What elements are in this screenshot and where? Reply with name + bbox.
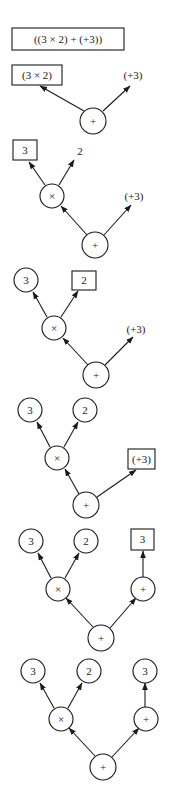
node-label: (+3): [132, 453, 151, 466]
node-times-circle: ×: [46, 577, 70, 601]
node-three-circle: 3: [21, 659, 45, 683]
diagram-stage-2: (3 × 2)(+3)+: [12, 65, 143, 134]
node-right-text: (+3): [123, 69, 142, 82]
node-times-circle: ×: [49, 707, 73, 731]
node-label: 2: [77, 145, 83, 157]
node-label: ((3 × 2) + (+3)): [34, 33, 102, 46]
node-root-circle: +: [82, 232, 108, 258]
node-label: +: [140, 583, 146, 595]
arrow-edge: [59, 160, 74, 185]
arrow-edge: [37, 422, 50, 447]
node-times-circle: ×: [40, 184, 64, 208]
node-root-circle: +: [90, 754, 116, 780]
node-label: (+3): [126, 323, 145, 336]
node-two-circle: 2: [77, 659, 101, 683]
arrow-edge: [65, 553, 79, 578]
node-label: (3 × 2): [22, 69, 52, 82]
node-unary-plus-circle: +: [134, 707, 158, 731]
node-label: 3: [30, 665, 36, 677]
node-three-circle: 3: [19, 529, 43, 553]
diagram-stage-7: 323×++: [21, 659, 158, 780]
node-root-circle: +: [88, 625, 114, 651]
node-label: 2: [86, 665, 92, 677]
node-three-circle: 3: [18, 398, 42, 422]
node-label: ×: [51, 322, 57, 334]
diagram-stage-6: 323×++: [19, 529, 155, 651]
arrow-edge: [68, 683, 82, 708]
node-label: ×: [58, 713, 64, 725]
diagram-stage-4: 32×(+3)+: [14, 268, 146, 388]
node-label: +: [83, 499, 89, 511]
arrow-edge: [97, 470, 136, 497]
node-left-box: (3 × 2): [12, 65, 62, 85]
node-two-circle: 2: [73, 398, 97, 422]
node-root-circle: +: [80, 108, 106, 134]
arrow-edge: [61, 206, 87, 235]
diagram-stage-3: 32×(+3)+: [13, 140, 144, 258]
arrow-edge: [29, 162, 45, 185]
node-label: ×: [49, 190, 55, 202]
node-three-circle: 3: [14, 268, 38, 292]
node-label: 3: [27, 404, 33, 416]
arrow-edge: [40, 86, 84, 111]
node-three-box: 3: [13, 140, 37, 160]
node-two-box: 2: [72, 271, 96, 290]
node-label: 3: [28, 535, 34, 547]
node-right-box: (+3): [128, 449, 155, 469]
node-label: 3: [23, 274, 29, 286]
node-label: 2: [81, 274, 87, 286]
node-three-right-box: 3: [131, 529, 154, 550]
node-right-text: (+3): [124, 190, 143, 203]
arrow-edge: [63, 338, 88, 365]
node-label: 2: [82, 404, 88, 416]
node-label: +: [93, 369, 99, 381]
arrow-edge: [69, 728, 95, 756]
arrow-edge: [112, 728, 139, 757]
node-label: 3: [140, 533, 146, 545]
node-label: +: [90, 115, 96, 127]
node-right-text: (+3): [126, 323, 145, 336]
node-unary-plus-circle: +: [131, 577, 155, 601]
arrow-edge: [66, 598, 93, 627]
arrow-edge: [103, 86, 130, 111]
arrow-edge: [110, 598, 136, 628]
node-root-circle: +: [73, 492, 99, 518]
node-three-right-circle: 3: [133, 659, 157, 683]
node-label: (+3): [123, 69, 142, 82]
node-label: +: [92, 239, 98, 251]
node-times-circle: ×: [42, 316, 66, 340]
expression-tree-diagram: ((3 × 2) + (+3))(3 × 2)(+3)+32×(+3)+32×(…: [0, 0, 174, 803]
node-label: ×: [54, 452, 60, 464]
node-label: +: [98, 632, 104, 644]
node-label: +: [100, 761, 106, 773]
stages-layer: ((3 × 2) + (+3))(3 × 2)(+3)+32×(+3)+32×(…: [12, 28, 158, 780]
arrow-edge: [33, 292, 47, 317]
node-expr-box: ((3 × 2) + (+3)): [12, 28, 124, 50]
node-two-circle: 2: [74, 529, 98, 553]
node-label: (+3): [124, 190, 143, 203]
node-root-circle: +: [83, 362, 109, 388]
arrow-edge: [64, 422, 78, 447]
arrow-edge: [105, 337, 133, 365]
node-two-text: 2: [77, 145, 83, 157]
node-times-circle: ×: [45, 446, 69, 470]
node-label: +: [143, 713, 149, 725]
diagram-stage-5: 32×(+3)+: [18, 398, 155, 518]
arrow-edge: [104, 205, 131, 235]
diagram-canvas: ((3 × 2) + (+3))(3 × 2)(+3)+32×(+3)+32×(…: [0, 0, 174, 803]
arrow-edge: [38, 553, 51, 578]
node-label: ×: [55, 583, 61, 595]
arrow-edge: [65, 469, 79, 494]
node-label: 2: [83, 535, 89, 547]
arrow-edge: [61, 291, 78, 317]
diagram-stage-1: ((3 × 2) + (+3)): [12, 28, 124, 50]
node-label: 3: [142, 665, 148, 677]
arrow-edge: [40, 683, 54, 708]
node-label: 3: [22, 144, 28, 156]
